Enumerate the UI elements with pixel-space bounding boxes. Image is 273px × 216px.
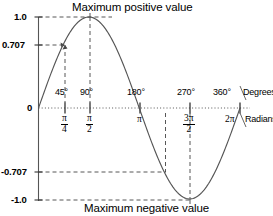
x-tick-label-90deg: 90° xyxy=(80,88,93,97)
x-axis-ticks xyxy=(65,103,240,114)
x-tick-label-270deg: 270° xyxy=(177,88,195,97)
x-tick-label-360deg: 360° xyxy=(213,88,231,97)
x-rad-label-3pi-over-2: 3π 2 xyxy=(183,114,195,135)
x-tick-label-180deg: 180° xyxy=(127,88,145,97)
x-rad-label-pi-over-4: π 4 xyxy=(61,114,68,135)
x-rad-label-2pi: 2π xyxy=(225,115,235,125)
y-tick-label-0707: 0.707 xyxy=(2,40,25,50)
rad-denominator: 4 xyxy=(61,125,68,135)
y-tick-label-0: 0 xyxy=(27,103,32,113)
degrees-unit-label: Degrees xyxy=(243,88,273,97)
radians-unit-label: Radians xyxy=(245,115,273,124)
y-tick-label-neg1: -1.0 xyxy=(11,195,27,205)
rad-numerator: π xyxy=(61,114,68,125)
rad-denominator: 2 xyxy=(183,125,195,135)
x-tick-label-45deg: 45° xyxy=(55,88,68,97)
sine-wave-plot xyxy=(0,0,273,216)
rad-numerator: π xyxy=(86,114,93,125)
bottom-title: Maximum negative value xyxy=(84,203,209,215)
sine-wave-figure: Maximum positive value Maximum negative … xyxy=(0,0,273,216)
rad-denominator: 2 xyxy=(86,125,93,135)
y-tick-label-1: 1.0 xyxy=(14,12,27,22)
x-rad-label-pi: π xyxy=(137,115,142,125)
x-rad-label-pi-over-2: π 2 xyxy=(86,114,93,135)
y-tick-label-neg0707: -0.707 xyxy=(1,167,27,177)
rad-numerator: 3π xyxy=(183,114,195,125)
top-title: Maximum positive value xyxy=(72,2,193,14)
